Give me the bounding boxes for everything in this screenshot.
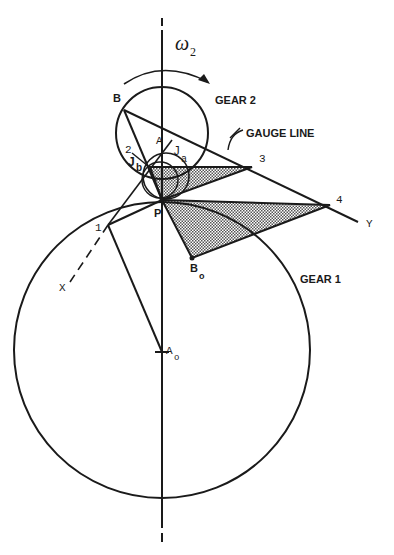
label-Bo: B	[190, 262, 198, 274]
p-point	[160, 198, 165, 203]
label-Ao-sub: o	[174, 353, 179, 363]
label-X: X	[59, 282, 66, 294]
label-Y: Y	[366, 218, 373, 230]
label-Ja: J	[173, 145, 180, 159]
shaded-triangle-upper	[150, 167, 252, 200]
label-1: 1	[95, 222, 102, 234]
label-gear2: GEAR 2	[215, 94, 256, 106]
label-Jb: J	[128, 155, 135, 169]
label-P: P	[154, 207, 161, 219]
label-omega-sub: 2	[190, 45, 196, 59]
label-gear1: GEAR 1	[300, 273, 341, 285]
label-Jb-sub: b	[136, 162, 142, 173]
label-B: B	[113, 92, 121, 104]
gauge-leader	[230, 128, 240, 138]
bo-point	[190, 256, 195, 261]
line-1-Ao	[108, 225, 162, 352]
label-Bo-sub: o	[199, 271, 205, 281]
rotation-arrowhead	[198, 74, 210, 84]
label-3: 3	[259, 153, 266, 165]
label-A: A	[156, 135, 163, 147]
label-gauge-line: GAUGE LINE	[246, 127, 314, 139]
line-X-dashed	[70, 225, 108, 282]
rotation-arrow-arc	[124, 70, 208, 84]
label-Ja-sub: a	[181, 154, 187, 165]
label-omega: ω	[175, 32, 189, 54]
label-4: 4	[336, 194, 343, 206]
label-Ao: A	[166, 345, 173, 357]
gear-diagram: ω 2 GEAR 2 GEAR 1 GAUGE LINE B A P 1 2 3…	[0, 0, 394, 555]
